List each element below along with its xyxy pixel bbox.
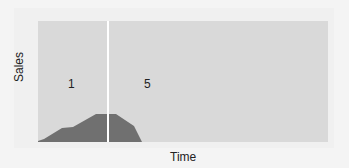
y-axis-label: Sales (12, 52, 26, 82)
plot-panel: 1 5 (38, 21, 328, 142)
x-axis-label: Time (170, 150, 196, 164)
region-label-left: 1 (68, 77, 75, 91)
divider-line (107, 21, 109, 142)
sales-area (38, 21, 328, 142)
region-label-right: 5 (144, 77, 151, 91)
